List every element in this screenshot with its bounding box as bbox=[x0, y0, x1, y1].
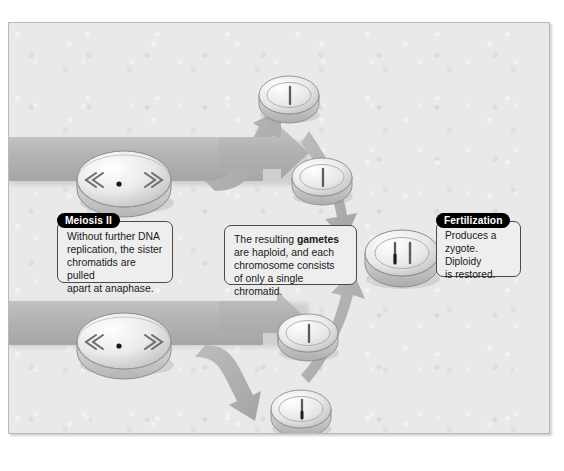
callout-gametes-line-4: of only a single chromatid. bbox=[234, 272, 349, 298]
callout-fertilization-line-3: is restored. bbox=[445, 269, 514, 282]
anaphase-ii-cell-top bbox=[65, 139, 183, 219]
callout-meiosis-ii: Without further DNA replication, the sis… bbox=[57, 221, 173, 283]
callout-fertilization-line-1: Produces a bbox=[445, 230, 514, 243]
haploid-gamete-cell-1 bbox=[252, 67, 326, 129]
centromere-dot bbox=[116, 343, 121, 348]
callout-meiosis-ii-line-2: replication, the sister bbox=[67, 243, 165, 256]
centromere-dot bbox=[116, 181, 121, 186]
haploid-gamete-cell-4 bbox=[264, 381, 338, 434]
haploid-gamete-cell-3 bbox=[271, 305, 345, 367]
diploid-zygote-cell bbox=[357, 219, 447, 297]
callout-gametes-line-2: are haploid, and each bbox=[234, 246, 349, 259]
badge-fertilization: Fertilization bbox=[436, 213, 510, 228]
callout-meiosis-ii-line-1: Without further DNA bbox=[67, 230, 165, 243]
badge-fertilization-label: Fertilization bbox=[444, 215, 502, 226]
diagram-figure: Meiosis II Without further DNA replicati… bbox=[8, 22, 550, 434]
badge-meiosis-ii-label: Meiosis II bbox=[65, 215, 112, 226]
callout-meiosis-ii-line-3: chromatids are pulled bbox=[67, 256, 165, 282]
haploid-gamete-cell-2 bbox=[285, 149, 359, 211]
callout-gametes-line-1: The resulting gametes bbox=[234, 233, 349, 246]
callout-fertilization-line-2: zygote. Diploidy bbox=[445, 243, 514, 269]
callout-gametes-line-3: chromosome consists bbox=[234, 259, 349, 272]
anaphase-ii-cell-bottom bbox=[65, 301, 183, 381]
badge-meiosis-ii: Meiosis II bbox=[57, 213, 120, 228]
callout-meiosis-ii-line-4: apart at anaphase. bbox=[67, 282, 165, 295]
callout-gametes: The resulting gametes are haploid, and e… bbox=[224, 225, 357, 285]
callout-fertilization: Produces a zygote. Diploidy is restored. bbox=[436, 221, 521, 277]
